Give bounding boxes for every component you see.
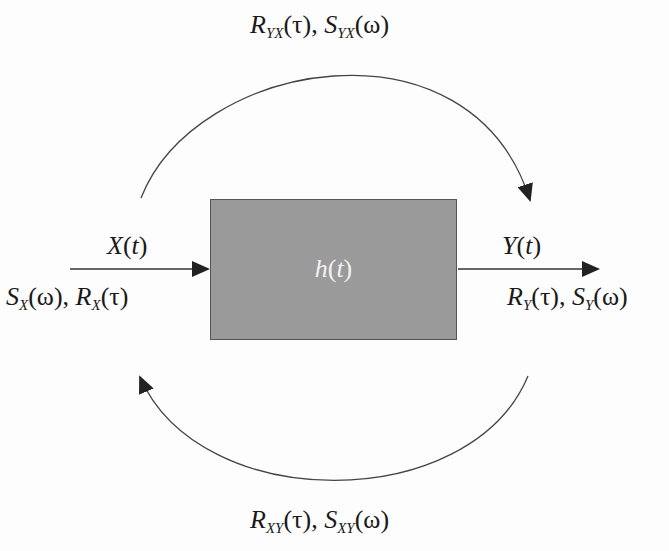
s-symbol: S bbox=[324, 10, 337, 39]
output-spectra-label: RY(τ), SY(ω) bbox=[507, 284, 628, 310]
output-signal-name: Y bbox=[502, 231, 516, 260]
bottom-arc-label: RXY(τ), SXY(ω) bbox=[250, 507, 389, 533]
r-arg: (τ) bbox=[283, 505, 311, 534]
s-arg: (ω) bbox=[28, 282, 62, 311]
s-arg: (ω) bbox=[593, 282, 627, 311]
s-symbol: S bbox=[572, 282, 585, 311]
separator: , bbox=[559, 282, 572, 311]
output-signal-label: Y(t) bbox=[502, 233, 541, 259]
separator: , bbox=[311, 10, 324, 39]
input-signal-label: X(t) bbox=[107, 233, 147, 259]
s-subscript: YX bbox=[337, 25, 355, 41]
separator: , bbox=[63, 282, 76, 311]
r-subscript: YX bbox=[266, 25, 284, 41]
s-arg: (ω) bbox=[355, 505, 389, 534]
s-subscript: XY bbox=[337, 520, 355, 536]
system-label: h(t) bbox=[211, 256, 456, 282]
system-block: h(t) bbox=[210, 199, 457, 340]
bottom-cross-correlation-arc bbox=[140, 376, 528, 480]
s-subscript: X bbox=[19, 297, 28, 313]
r-subscript: X bbox=[92, 297, 101, 313]
system-fn-arg: t bbox=[336, 254, 343, 283]
separator: , bbox=[311, 505, 324, 534]
r-subscript: Y bbox=[523, 297, 531, 313]
r-arg: (τ) bbox=[283, 10, 311, 39]
lti-system-diagram: h(t) RYX(τ), SYX(ω) X(t) SX(ω), RX(τ) Y(… bbox=[0, 0, 669, 551]
r-symbol: R bbox=[507, 282, 523, 311]
system-fn-name: h bbox=[315, 254, 328, 283]
s-symbol: S bbox=[6, 282, 19, 311]
r-symbol: R bbox=[250, 505, 266, 534]
top-arc-label: RYX(τ), SYX(ω) bbox=[250, 12, 389, 38]
r-arg: (τ) bbox=[531, 282, 559, 311]
input-signal-name: X bbox=[107, 231, 123, 260]
s-symbol: S bbox=[324, 505, 337, 534]
top-cross-correlation-arc bbox=[141, 75, 530, 200]
input-signal-arg: t bbox=[132, 231, 139, 260]
r-symbol: R bbox=[250, 10, 266, 39]
r-symbol: R bbox=[76, 282, 92, 311]
s-arg: (ω) bbox=[355, 10, 389, 39]
input-spectra-label: SX(ω), RX(τ) bbox=[6, 284, 128, 310]
output-signal-arg: t bbox=[525, 231, 532, 260]
r-arg: (τ) bbox=[101, 282, 129, 311]
r-subscript: XY bbox=[266, 520, 284, 536]
